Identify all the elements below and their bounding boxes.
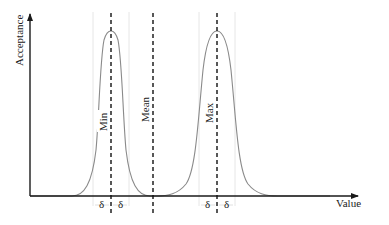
mean-label: Mean [139,96,151,122]
min-label: Min [97,112,109,131]
delta-max-left: δ [205,198,210,210]
y-axis-label: Acceptance [13,15,25,66]
max-label: Max [203,102,215,123]
delta-max-right: δ [224,198,229,210]
acceptance-curve-max [153,31,330,196]
delta-min-left: δ [99,198,104,210]
acceptance-curve-min [30,31,153,196]
acceptance-diagram: Min Mean Max Acceptance Value δ δ δ δ [0,0,389,225]
x-axis-label: Value [336,197,361,209]
delta-min-right: δ [118,198,123,210]
